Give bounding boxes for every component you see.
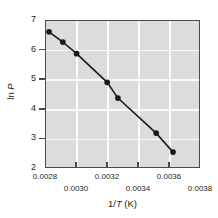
x-axis-tick-label: 0.0030 — [53, 184, 99, 193]
x-axis-tick-label: 0.0038 — [177, 184, 218, 193]
x-axis-tick-label: 0.0034 — [115, 184, 161, 193]
y-axis-tick-label: 3 — [6, 133, 36, 142]
x-axis-title-prefix: 1/ — [108, 198, 116, 209]
y-axis-tick-label: 7 — [6, 15, 36, 24]
data-point-marker — [74, 51, 80, 57]
x-axis-title: 1/T (K) — [45, 198, 200, 209]
x-axis-tick — [75, 162, 77, 168]
x-axis-tick — [106, 162, 108, 168]
x-axis-tick-label: 0.0036 — [146, 172, 192, 181]
data-series-plot — [46, 21, 199, 167]
chart-figure: 765432 0.00280.00300.00320.00340.00360.0… — [0, 0, 218, 218]
data-point-marker — [115, 95, 121, 101]
x-axis-title-suffix: (K) — [122, 198, 137, 209]
x-axis-tick-label: 0.0028 — [22, 172, 68, 181]
data-point-marker — [170, 149, 176, 155]
series-markers — [46, 29, 176, 155]
plot-area — [45, 20, 200, 168]
y-axis-tick — [39, 138, 45, 140]
y-axis-title-prefix: ln — [5, 90, 16, 100]
x-axis-tick-label: 0.0032 — [84, 172, 130, 181]
y-axis-tick — [39, 49, 45, 51]
x-axis-tick — [137, 162, 139, 168]
y-axis-tick — [39, 78, 45, 80]
data-point-marker — [153, 130, 159, 136]
y-axis-tick-label: 2 — [6, 163, 36, 172]
data-point-marker — [104, 79, 110, 85]
y-axis-title: ln P — [5, 70, 16, 114]
x-axis-tick — [168, 162, 170, 168]
data-point-marker — [60, 39, 66, 45]
y-axis-tick — [39, 108, 45, 110]
y-axis-title-variable: P — [5, 83, 16, 89]
data-point-marker — [46, 29, 52, 35]
y-axis-tick-label: 6 — [6, 45, 36, 54]
